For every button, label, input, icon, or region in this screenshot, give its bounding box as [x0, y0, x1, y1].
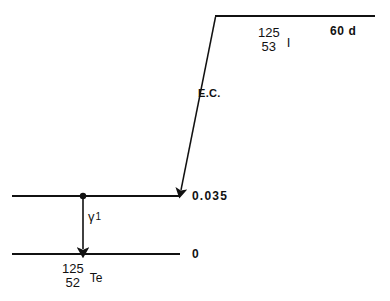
daughter-atomic-number: 52: [66, 276, 80, 290]
daughter-nuclide-label: 125 52 Te: [62, 262, 102, 289]
parent-mass-number: 125: [258, 26, 280, 40]
electron-capture-arrow: [181, 17, 216, 190]
parent-nuclide-label: 125 53 I: [258, 26, 290, 53]
ground-level-energy-label: 0: [192, 248, 199, 260]
parent-nuclide-az-notation: 125 53: [258, 26, 280, 53]
daughter-mass-number: 125: [62, 262, 84, 276]
gamma-transition-label: γ 1: [88, 210, 101, 223]
daughter-nuclide-az-notation: 125 52: [62, 262, 84, 289]
daughter-element-symbol: Te: [90, 267, 103, 284]
parent-atomic-number: 53: [262, 40, 276, 54]
electron-capture-label: E.C.: [198, 88, 221, 99]
parent-element-symbol: I: [287, 31, 291, 49]
excited-level-energy-label: 0.035: [192, 190, 228, 202]
parent-half-life-label: 60 d: [330, 25, 356, 37]
gamma-subscript: 1: [95, 212, 102, 223]
